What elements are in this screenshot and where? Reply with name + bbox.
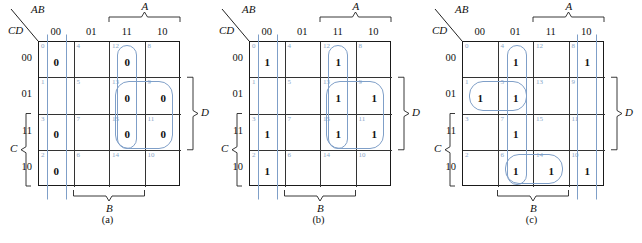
- column-header-00-0: 00: [462, 26, 498, 37]
- row-header-11-2: 11: [432, 125, 456, 136]
- kmap-cell-10[interactable]: 10: [357, 151, 393, 187]
- map-caption: (c): [424, 214, 639, 225]
- kmap-grid: 014121815131913171511112161410: [249, 41, 391, 186]
- bracket-right-D: [187, 77, 198, 150]
- row-header-10-3: 10: [8, 161, 32, 172]
- bracket-right-D: [398, 77, 409, 150]
- kmap-grid: 041128111511393711511261141101: [462, 41, 604, 186]
- bracket-label-A: A: [353, 0, 360, 12]
- bracket-bottom-B: [74, 190, 145, 201]
- bracket-label-C: C: [10, 142, 17, 154]
- axis-label-AB: AB: [31, 3, 44, 15]
- cell-value-3: [463, 115, 498, 150]
- axis-label-CD: CD: [432, 24, 447, 36]
- bracket-label-B: B: [106, 202, 113, 214]
- cell-value-5: [75, 78, 110, 113]
- cell-value-0: [463, 42, 498, 77]
- kmap-cell-6[interactable]: 6: [286, 151, 322, 187]
- cell-value-8: [357, 42, 393, 77]
- bracket-top-A: [533, 12, 604, 22]
- kmap-cell-7[interactable]: 7: [75, 115, 111, 151]
- column-header-01-1: 01: [74, 26, 110, 37]
- group-col00-wrap: [47, 34, 67, 200]
- bracket-label-B: B: [317, 202, 324, 214]
- cell-value-14: [110, 151, 145, 187]
- cell-value-6: [75, 151, 110, 187]
- kmap-cell-4[interactable]: 4: [75, 42, 111, 78]
- karnaugh-map-a: ABCDABDC00011110000111100041208151309030…: [0, 0, 215, 243]
- column-header-11-2: 11: [320, 26, 356, 37]
- kmap-cell-14[interactable]: 14: [110, 151, 146, 187]
- map-caption: (a): [0, 214, 215, 225]
- row-header-11-2: 11: [219, 125, 243, 136]
- axis-label-CD: CD: [219, 24, 234, 36]
- column-header-11-2: 11: [109, 26, 145, 37]
- kmap-grid: 004120815130903071501102061410: [38, 41, 180, 186]
- cell-value-6: [286, 151, 321, 187]
- kmap-cell-14[interactable]: 14: [321, 151, 357, 187]
- kmap-cell-4[interactable]: 4: [286, 42, 322, 78]
- column-header-01-1: 01: [285, 26, 321, 37]
- bracket-bottom-B: [498, 190, 569, 201]
- row-header-01-1: 01: [8, 88, 32, 99]
- kmap-cell-12[interactable]: 12: [534, 42, 570, 78]
- cell-value-2: [463, 151, 498, 187]
- axis-label-AB: AB: [242, 3, 255, 15]
- bracket-top-A: [320, 12, 391, 22]
- karnaugh-map-b: ABCDABDC00011110000111100141218151319131…: [211, 0, 426, 243]
- kmap-cell-8[interactable]: 8: [146, 42, 182, 78]
- column-header-10-3: 10: [145, 26, 181, 37]
- kmap-cell-15[interactable]: 15: [534, 115, 570, 151]
- cell-value-4: [286, 42, 321, 77]
- row-header-10-3: 10: [432, 161, 456, 172]
- cell-value-8: [146, 42, 182, 77]
- group-quad-13-9-15-11: [326, 81, 384, 149]
- group-col10-wrap-8-10: [577, 34, 597, 200]
- bracket-label-C: C: [221, 142, 228, 154]
- row-header-01-1: 01: [432, 88, 456, 99]
- kmap-cell-13[interactable]: 13: [534, 78, 570, 114]
- kmap-figure-sheet: ABCDABDC00011110000111100041208151309030…: [0, 0, 642, 243]
- cell-value-7: [286, 115, 321, 150]
- bracket-label-B: B: [530, 202, 537, 214]
- row-header-10-3: 10: [219, 161, 243, 172]
- column-header-11-2: 11: [533, 26, 569, 37]
- kmap-cell-6[interactable]: 6: [75, 151, 111, 187]
- kmap-cell-8[interactable]: 8: [357, 42, 393, 78]
- kmap-cell-0[interactable]: 0: [463, 42, 499, 78]
- axis-label-AB: AB: [455, 3, 468, 15]
- cell-value-10: [146, 151, 182, 187]
- map-caption: (b): [211, 214, 426, 225]
- bracket-label-D: D: [625, 106, 633, 118]
- cell-value-14: [321, 151, 356, 187]
- group-col00-wrap: [258, 34, 278, 200]
- row-header-00-0: 00: [8, 52, 32, 63]
- kmap-cell-10[interactable]: 10: [146, 151, 182, 187]
- cell-value-7: [75, 115, 110, 150]
- kmap-cell-7[interactable]: 7: [286, 115, 322, 151]
- karnaugh-map-c: ABCDABDC00011110000111100411281115113937…: [424, 0, 639, 243]
- cell-value-12: [534, 42, 569, 77]
- kmap-cell-5[interactable]: 5: [75, 78, 111, 114]
- kmap-cell-2[interactable]: 2: [463, 151, 499, 187]
- group-row10-cells-6-14: [505, 154, 563, 184]
- bracket-label-C: C: [434, 142, 441, 154]
- cell-value-13: [534, 78, 569, 113]
- bracket-label-A: A: [142, 0, 149, 12]
- kmap-cell-5[interactable]: 5: [286, 78, 322, 114]
- bracket-label-D: D: [201, 106, 209, 118]
- group-quad-13-9-15-11: [115, 81, 173, 149]
- cell-value-15: [534, 115, 569, 150]
- kmap-cell-3[interactable]: 3: [463, 115, 499, 151]
- group-row01-cells-1-5: [469, 81, 527, 111]
- column-header-01-1: 01: [498, 26, 534, 37]
- axis-label-CD: CD: [8, 24, 23, 36]
- cell-value-4: [75, 42, 110, 77]
- bracket-bottom-B: [285, 190, 356, 201]
- row-header-00-0: 00: [432, 52, 456, 63]
- cell-value-10: [357, 151, 393, 187]
- bracket-label-D: D: [412, 106, 420, 118]
- row-header-00-0: 00: [219, 52, 243, 63]
- cell-value-5: [286, 78, 321, 113]
- bracket-top-A: [109, 12, 180, 22]
